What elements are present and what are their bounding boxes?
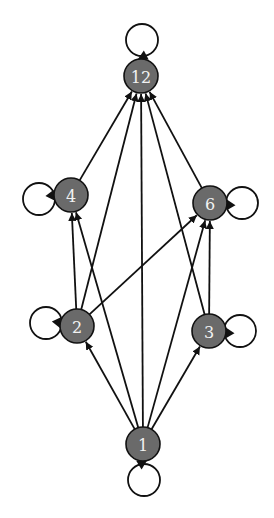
self-loop-4 (23, 183, 55, 215)
node-12: 12 (124, 59, 158, 93)
node-label: 1 (138, 436, 148, 455)
edge-1-to-2 (86, 342, 135, 429)
node-6: 6 (193, 186, 227, 220)
self-loop-1 (128, 464, 160, 496)
node-3: 3 (192, 314, 226, 348)
edge-4-to-12 (80, 92, 132, 181)
edge-2-to-12 (81, 93, 136, 309)
node-2: 2 (60, 309, 94, 343)
node-label: 4 (66, 187, 76, 206)
edges-layer (72, 92, 210, 430)
node-label: 6 (205, 195, 215, 214)
edge-3-to-6 (209, 221, 210, 314)
edge-2-to-4 (72, 213, 76, 309)
self-loop-12 (126, 24, 158, 56)
node-1: 1 (126, 427, 160, 461)
node-label: 3 (204, 323, 214, 342)
divisor-graph: 1246231 (0, 0, 274, 518)
node-label: 2 (72, 318, 82, 337)
node-4: 4 (54, 178, 88, 212)
node-label: 12 (131, 68, 151, 87)
edge-2-to-6 (89, 215, 196, 314)
edge-1-to-12 (141, 94, 143, 427)
